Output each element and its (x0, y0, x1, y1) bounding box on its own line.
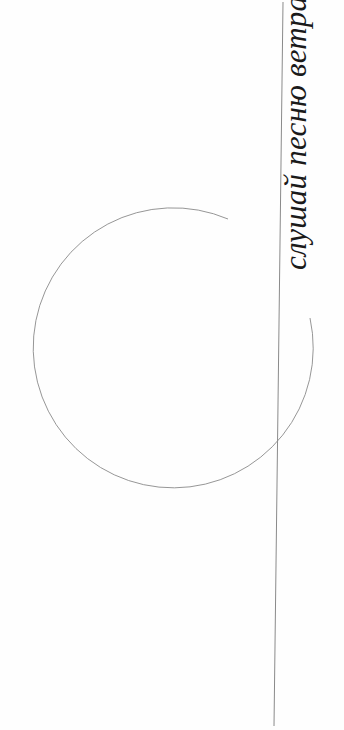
vertical-caption: слушай песню ветра (280, 0, 311, 270)
open-circle-arc (33, 208, 313, 488)
